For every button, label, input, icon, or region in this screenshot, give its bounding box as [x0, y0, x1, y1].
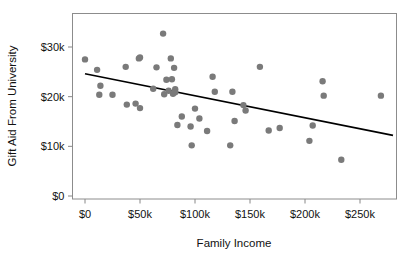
y-tick-label-1: $10k: [41, 140, 65, 152]
plot-frame: [73, 14, 397, 200]
data-point: [163, 77, 169, 83]
data-point: [277, 125, 283, 131]
data-point: [204, 128, 210, 134]
data-point: [137, 54, 143, 60]
x-axis-ticks: [85, 199, 360, 204]
data-point: [240, 102, 246, 108]
data-point: [109, 91, 115, 97]
y-tick-label-2: $20k: [41, 91, 65, 103]
x-tick-label-1: $50k: [128, 208, 152, 220]
data-point: [306, 138, 312, 144]
data-point: [229, 89, 235, 95]
data-point: [319, 78, 325, 84]
data-point: [338, 157, 344, 163]
data-point: [242, 107, 248, 113]
x-tick-label-5: $250k: [345, 208, 375, 220]
data-point: [187, 123, 193, 129]
x-tick-label-3: $150k: [235, 208, 265, 220]
data-points: [82, 30, 384, 163]
data-point: [171, 65, 177, 71]
y-axis-title: Gift Aid From University: [6, 45, 18, 166]
data-point: [168, 55, 174, 61]
data-point: [150, 86, 156, 92]
data-point: [378, 92, 384, 98]
trend-line-segment: [85, 74, 393, 136]
data-point: [174, 122, 180, 128]
data-point: [169, 76, 175, 82]
data-point: [153, 64, 159, 70]
scatter-chart: $0$10k$20k$30k $0$50k$100k$150k$200k$250…: [0, 0, 415, 262]
data-point: [123, 64, 129, 70]
data-point: [96, 91, 102, 97]
data-point: [97, 83, 103, 89]
data-point: [192, 105, 198, 111]
data-point: [212, 89, 218, 95]
y-axis-tick-labels: $0$10k$20k$30k: [41, 41, 65, 202]
x-tick-label-2: $100k: [180, 208, 210, 220]
data-point: [257, 64, 263, 70]
x-tick-label-0: $0: [79, 208, 91, 220]
y-axis-ticks: [68, 47, 73, 196]
data-point: [160, 30, 166, 36]
data-point: [227, 142, 233, 148]
x-tick-label-4: $200k: [290, 208, 320, 220]
data-point: [321, 92, 327, 98]
data-point: [179, 113, 185, 119]
data-point: [266, 127, 272, 133]
x-axis-title: Family Income: [197, 237, 272, 249]
data-point: [172, 89, 178, 95]
data-point: [189, 142, 195, 148]
data-point: [124, 101, 130, 107]
x-axis-tick-labels: $0$50k$100k$150k$200k$250k: [79, 208, 376, 220]
data-point: [137, 105, 143, 111]
data-point: [196, 115, 202, 121]
y-tick-label-3: $30k: [41, 41, 65, 53]
data-point: [231, 118, 237, 124]
data-point: [82, 56, 88, 62]
data-point: [94, 67, 100, 73]
y-tick-label-0: $0: [52, 190, 64, 202]
trend-line: [85, 74, 393, 136]
data-point: [310, 122, 316, 128]
data-point: [209, 74, 215, 80]
chart-canvas: $0$10k$20k$30k $0$50k$100k$150k$200k$250…: [0, 0, 415, 262]
